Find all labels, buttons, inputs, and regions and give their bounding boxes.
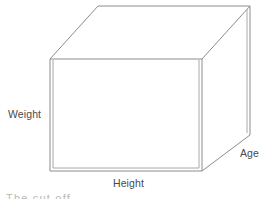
cuboid-shape [0,0,265,199]
axis-label-height: Height [113,178,144,189]
edge-diagonal-top-left [50,6,98,59]
axis-label-weight: Weight [8,109,41,120]
edge-diagonal-top-right [202,6,250,59]
axis-label-age: Age [240,148,259,159]
caption-clipped-text: The cut off [6,193,259,199]
cuboid-diagram: Weight Height Age The cut off [0,0,265,199]
